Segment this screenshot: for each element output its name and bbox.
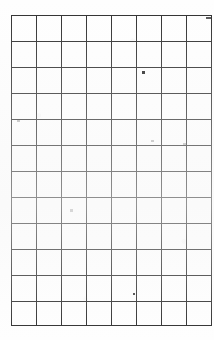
grid-cell[interactable] bbox=[112, 146, 137, 172]
grid-cell[interactable] bbox=[12, 94, 37, 120]
grid-cell[interactable] bbox=[37, 276, 62, 302]
grid-cell[interactable] bbox=[12, 276, 37, 302]
grid-cell[interactable] bbox=[112, 250, 137, 276]
grid-cell[interactable] bbox=[162, 224, 187, 250]
grid-cell[interactable] bbox=[87, 198, 112, 224]
grid-cell[interactable] bbox=[162, 146, 187, 172]
table-row bbox=[12, 224, 212, 250]
grid-cell[interactable] bbox=[37, 16, 62, 42]
grid-cell[interactable] bbox=[37, 302, 62, 326]
grid-cell[interactable] bbox=[112, 172, 137, 198]
grid-cell[interactable] bbox=[12, 172, 37, 198]
grid-cell[interactable] bbox=[37, 68, 62, 94]
grid-cell[interactable] bbox=[187, 276, 212, 302]
grid-cell[interactable] bbox=[112, 68, 137, 94]
grid-cell[interactable] bbox=[87, 302, 112, 326]
grid-cell[interactable] bbox=[187, 302, 212, 326]
grid-cell[interactable] bbox=[62, 198, 87, 224]
grid-cell[interactable] bbox=[137, 68, 162, 94]
grid-cell[interactable] bbox=[112, 302, 137, 326]
grid-cell[interactable] bbox=[37, 172, 62, 198]
grid-cell[interactable] bbox=[187, 120, 212, 146]
grid-cell[interactable] bbox=[37, 120, 62, 146]
grid-cell[interactable] bbox=[62, 68, 87, 94]
grid-cell[interactable] bbox=[12, 16, 37, 42]
grid-cell[interactable] bbox=[12, 146, 37, 172]
grid-cell[interactable] bbox=[112, 94, 137, 120]
grid-cell[interactable] bbox=[62, 172, 87, 198]
grid-cell[interactable] bbox=[112, 42, 137, 68]
grid-cell[interactable] bbox=[187, 94, 212, 120]
grid-cell[interactable] bbox=[187, 16, 212, 42]
grid-cell[interactable] bbox=[162, 94, 187, 120]
table-row bbox=[12, 120, 212, 146]
grid-cell[interactable] bbox=[87, 172, 112, 198]
grid-cell[interactable] bbox=[137, 276, 162, 302]
table-row bbox=[12, 94, 212, 120]
grid-cell[interactable] bbox=[162, 276, 187, 302]
grid-cell[interactable] bbox=[87, 276, 112, 302]
grid-cell[interactable] bbox=[87, 94, 112, 120]
grid-cell[interactable] bbox=[87, 224, 112, 250]
grid-cell[interactable] bbox=[37, 224, 62, 250]
grid-cell[interactable] bbox=[112, 224, 137, 250]
grid-cell[interactable] bbox=[12, 68, 37, 94]
grid-cell[interactable] bbox=[87, 16, 112, 42]
grid-cell[interactable] bbox=[37, 94, 62, 120]
grid-cell[interactable] bbox=[162, 42, 187, 68]
grid-cell[interactable] bbox=[187, 68, 212, 94]
grid-cell[interactable] bbox=[12, 250, 37, 276]
table-row bbox=[12, 172, 212, 198]
grid-cell[interactable] bbox=[62, 302, 87, 326]
grid-cell[interactable] bbox=[137, 16, 162, 42]
grid-cell[interactable] bbox=[137, 198, 162, 224]
grid-cell[interactable] bbox=[87, 120, 112, 146]
grid-cell[interactable] bbox=[162, 198, 187, 224]
grid-cell[interactable] bbox=[12, 120, 37, 146]
grid-cell[interactable] bbox=[137, 172, 162, 198]
grid-cell[interactable] bbox=[62, 276, 87, 302]
grid-cell[interactable] bbox=[62, 42, 87, 68]
grid-cell[interactable] bbox=[187, 172, 212, 198]
grid-cell[interactable] bbox=[62, 146, 87, 172]
grid-cell[interactable] bbox=[162, 250, 187, 276]
grid-cell[interactable] bbox=[87, 250, 112, 276]
grid-cell[interactable] bbox=[137, 42, 162, 68]
grid-cell[interactable] bbox=[112, 276, 137, 302]
grid-cell[interactable] bbox=[62, 250, 87, 276]
grid-cell[interactable] bbox=[137, 120, 162, 146]
grid-cell[interactable] bbox=[62, 224, 87, 250]
grid-cell[interactable] bbox=[162, 16, 187, 42]
grid-cell[interactable] bbox=[162, 68, 187, 94]
grid-cell[interactable] bbox=[37, 250, 62, 276]
grid-cell[interactable] bbox=[162, 172, 187, 198]
grid-cell[interactable] bbox=[37, 198, 62, 224]
grid-cell[interactable] bbox=[12, 42, 37, 68]
grid-cell[interactable] bbox=[62, 16, 87, 42]
grid-cell[interactable] bbox=[12, 198, 37, 224]
grid-cell[interactable] bbox=[162, 120, 187, 146]
grid-cell[interactable] bbox=[62, 94, 87, 120]
grid-cell[interactable] bbox=[137, 224, 162, 250]
grid-cell[interactable] bbox=[137, 94, 162, 120]
grid-cell[interactable] bbox=[187, 224, 212, 250]
grid-cell[interactable] bbox=[87, 146, 112, 172]
grid-cell[interactable] bbox=[112, 120, 137, 146]
grid-cell[interactable] bbox=[137, 302, 162, 326]
grid-cell[interactable] bbox=[187, 250, 212, 276]
grid-cell[interactable] bbox=[87, 42, 112, 68]
grid-cell[interactable] bbox=[112, 16, 137, 42]
grid-cell[interactable] bbox=[12, 302, 37, 326]
grid-cell[interactable] bbox=[87, 68, 112, 94]
grid-cell[interactable] bbox=[162, 302, 187, 326]
grid-cell[interactable] bbox=[62, 120, 87, 146]
grid-cell[interactable] bbox=[37, 42, 62, 68]
grid-cell[interactable] bbox=[12, 224, 37, 250]
grid-cell[interactable] bbox=[187, 146, 212, 172]
grid-cell[interactable] bbox=[187, 198, 212, 224]
grid-cell[interactable] bbox=[37, 146, 62, 172]
grid-cell[interactable] bbox=[137, 146, 162, 172]
grid-cell[interactable] bbox=[112, 198, 137, 224]
grid-cell[interactable] bbox=[137, 250, 162, 276]
grid-cell[interactable] bbox=[187, 42, 212, 68]
